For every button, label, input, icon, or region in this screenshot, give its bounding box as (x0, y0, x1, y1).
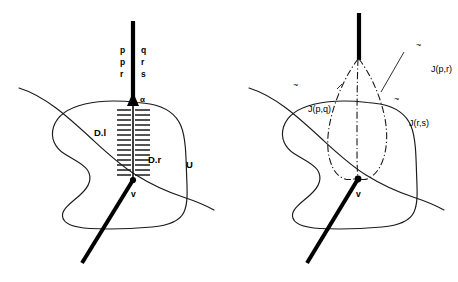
alpha-label: α (140, 96, 145, 104)
left-panel-graphics (19, 21, 214, 263)
sector-label-dl: D.l (94, 128, 106, 138)
curve-label-jpq: ~ J(p,q) (283, 78, 331, 132)
neighborhood-label-u: U (186, 160, 193, 170)
leader-line-jpq (337, 84, 342, 89)
hatch-marks-left (117, 110, 131, 175)
hatch-marks-right (135, 110, 150, 175)
curve-label-jpr-text: J(p,r) (431, 64, 452, 74)
tilde-wrap-jrs: ~ J(r,s) (394, 101, 429, 137)
tilde-wrap-jpr: ~ J(p,r) (416, 47, 452, 83)
thick-diagonal-edge-left (82, 180, 133, 263)
branch-label-left-p2: p (120, 58, 125, 67)
tilde-wrap-jpq: ~ J(p,q) (293, 87, 331, 123)
curve-label-jpr: ~ J(p,r) (406, 38, 452, 92)
dash-dot-curve-left (328, 59, 358, 180)
dash-dot-curve-right (358, 59, 387, 180)
branch-label-right-s: s (141, 70, 146, 79)
vertex-label-right: v (356, 190, 361, 199)
thick-diagonal-edge-right (307, 179, 358, 263)
tilde-icon-jrs: ~ (394, 95, 399, 104)
tilde-icon-jpr: ~ (416, 41, 421, 50)
branch-label-right-q: q (141, 46, 146, 55)
curve-label-jrs: ~ J(r,s) (384, 92, 429, 146)
curve-label-jpq-text: J(p,q) (308, 104, 331, 114)
leader-line-jpr (381, 52, 404, 92)
dash-dot-curve-middle (357, 59, 358, 178)
sheet-curve-left (19, 88, 214, 210)
curve-label-jrs-text: J(r,s) (409, 118, 429, 128)
branch-label-left-p1: p (120, 46, 125, 55)
figure-root: p p r q r s α D.l D.r U v ~ J(p,r) ~ J(p… (0, 0, 458, 282)
vertex-label-left: v (131, 190, 136, 199)
branch-label-right-r: r (141, 58, 144, 67)
tilde-icon-jpq: ~ (293, 81, 298, 90)
upward-arrowhead-left (127, 92, 139, 106)
branch-label-left-r: r (120, 70, 123, 79)
sector-label-dr: D.r (148, 155, 161, 165)
